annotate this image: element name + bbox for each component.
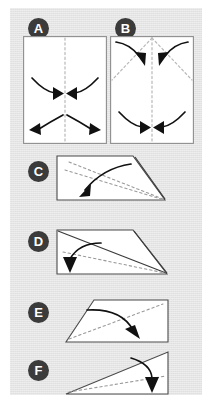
step-f-figure [63,350,173,400]
step-badge-c: C [28,161,49,182]
step-a-figure [23,36,107,144]
step-e-figure [63,296,173,348]
paper-sheet-e [66,300,168,342]
step-b-figure [110,36,194,144]
step-badge-d: D [28,231,49,252]
step-d-figure [55,226,170,282]
step-c-figure [55,152,165,208]
instruction-sheet: A B C [10,8,202,395]
step-badge-f: F [28,360,49,381]
step-badge-e: E [28,302,49,323]
